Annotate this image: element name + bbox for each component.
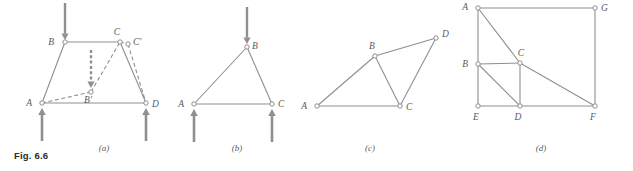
panel-c: ABCD(c) bbox=[300, 29, 449, 153]
member-a-AB bbox=[42, 42, 65, 103]
joint-label-c-C: C bbox=[406, 102, 413, 112]
reaction-at-A-b bbox=[190, 109, 198, 142]
panel-label-a: (a) bbox=[99, 143, 110, 153]
joint-label-a-Cp: C' bbox=[133, 37, 142, 47]
member-b-AB bbox=[194, 47, 247, 104]
load-at-B-b bbox=[243, 7, 250, 44]
joint-label-a-A: A bbox=[25, 98, 32, 108]
reaction-at-A-a bbox=[38, 108, 46, 141]
joint-label-d-A: A bbox=[461, 2, 468, 12]
joint-label-b-B: B bbox=[252, 41, 258, 51]
panel-d: AGBCEDF(d) bbox=[461, 2, 608, 153]
joint-label-d-F: F bbox=[589, 112, 596, 122]
arrow-head bbox=[38, 108, 46, 115]
joint-a-Cp bbox=[126, 42, 130, 46]
joint-d-F bbox=[593, 104, 597, 108]
joint-b-C bbox=[270, 102, 274, 106]
member-d-CF bbox=[520, 63, 595, 106]
joint-label-b-A: A bbox=[177, 99, 184, 109]
reaction-at-D-a bbox=[142, 108, 150, 141]
joint-label-d-B: B bbox=[462, 59, 468, 69]
member-c-BC bbox=[375, 56, 400, 106]
joint-b-A bbox=[192, 102, 196, 106]
arrow-head bbox=[268, 109, 276, 116]
joint-label-d-D: D bbox=[514, 112, 522, 122]
member-b-BC bbox=[247, 47, 272, 104]
member-d-AC bbox=[478, 8, 520, 63]
joint-label-c-B: B bbox=[369, 41, 375, 51]
figure-caption: Fig. 6.6 bbox=[14, 150, 48, 161]
joint-d-G bbox=[593, 6, 597, 10]
panel-b: ABC(b) bbox=[177, 7, 285, 153]
figure-canvas: ABCDC'B'(a)ABC(b)ABCD(c)AGBCEDF(d) bbox=[0, 0, 633, 171]
joint-label-a-Bp: B' bbox=[84, 95, 93, 105]
member-c-CD bbox=[400, 38, 436, 106]
joint-a-B bbox=[63, 40, 67, 44]
joint-a-A bbox=[40, 101, 44, 105]
joint-a-D bbox=[144, 101, 148, 105]
member-c-BD bbox=[375, 38, 436, 56]
arrow-head bbox=[87, 82, 94, 89]
joint-d-E bbox=[476, 104, 480, 108]
joint-label-a-B: B bbox=[48, 37, 54, 47]
joint-label-b-C: C bbox=[278, 99, 285, 109]
arrow-head bbox=[190, 109, 198, 116]
joint-a-C bbox=[118, 40, 122, 44]
joint-label-a-C: C bbox=[114, 27, 121, 37]
member-d-BD bbox=[478, 64, 520, 106]
joint-c-C bbox=[398, 104, 402, 108]
panel-a: ABCDC'B'(a) bbox=[25, 3, 159, 153]
joint-d-C bbox=[518, 61, 522, 65]
joint-d-B bbox=[476, 62, 480, 66]
deformed-member-a-B'C bbox=[91, 42, 120, 92]
load-at-B-a bbox=[61, 3, 68, 40]
joint-a-Bp bbox=[89, 90, 93, 94]
panel-label-c: (c) bbox=[365, 143, 375, 153]
joint-label-d-E: E bbox=[472, 112, 479, 122]
panel-label-d: (d) bbox=[536, 143, 547, 153]
arrow-head bbox=[142, 108, 150, 115]
arrow-head bbox=[243, 38, 250, 45]
joint-label-c-D: D bbox=[441, 29, 449, 39]
joint-c-D bbox=[434, 36, 438, 40]
joint-label-d-C: C bbox=[518, 48, 525, 58]
joint-label-d-G: G bbox=[601, 3, 608, 13]
joint-label-c-A: A bbox=[300, 101, 307, 111]
joint-c-A bbox=[315, 104, 319, 108]
deformed-member-a-C'D bbox=[128, 44, 146, 103]
displacement-at-B-a bbox=[87, 50, 94, 88]
figure-6-6: ABCDC'B'(a)ABC(b)ABCD(c)AGBCEDF(d) Fig. … bbox=[0, 0, 633, 171]
panels-layer: ABCDC'B'(a)ABC(b)ABCD(c)AGBCEDF(d) bbox=[25, 2, 608, 153]
joint-d-A bbox=[476, 6, 480, 10]
arrow-head bbox=[61, 34, 68, 41]
joint-c-B bbox=[373, 54, 377, 58]
joint-d-D bbox=[518, 104, 522, 108]
member-a-CD bbox=[120, 42, 146, 103]
member-c-AB bbox=[317, 56, 375, 106]
joint-b-B bbox=[245, 45, 249, 49]
joint-label-a-D: D bbox=[151, 99, 159, 109]
reaction-at-C-b bbox=[268, 109, 276, 142]
member-d-BC bbox=[478, 63, 520, 64]
panel-label-b: (b) bbox=[232, 143, 243, 153]
